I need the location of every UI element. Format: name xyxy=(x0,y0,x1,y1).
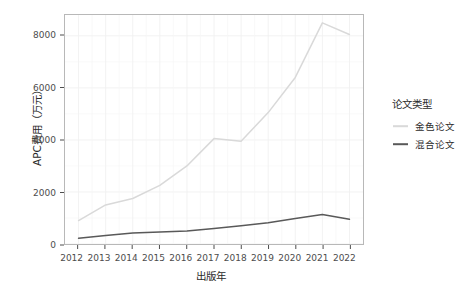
legend-key-stroke xyxy=(393,143,408,145)
y-tick-label: 4000 xyxy=(22,135,56,145)
y-tick-label: 8000 xyxy=(22,30,56,40)
y-tick-label: 6000 xyxy=(22,83,56,93)
line-chart: APC费用（万元） 02000400060008000 201220132014… xyxy=(0,0,474,288)
legend-title: 论文类型 xyxy=(392,96,472,111)
x-tick-label: 2013 xyxy=(87,253,110,263)
legend-key-stroke xyxy=(393,125,408,127)
plot-area xyxy=(65,15,363,244)
x-tick-label: 2022 xyxy=(333,253,356,263)
x-tick-label: 2019 xyxy=(251,253,274,263)
plot-panel xyxy=(64,14,364,245)
x-tick-label: 2012 xyxy=(60,253,83,263)
x-axis-tick-labels: 2012201320142015201620172018201920202021… xyxy=(58,249,364,265)
x-tick-label: 2021 xyxy=(306,253,329,263)
x-tick-label: 2020 xyxy=(278,253,301,263)
legend-key-line-icon xyxy=(392,119,409,133)
x-tick-label: 2016 xyxy=(169,253,192,263)
legend-item-label: 金色论文 xyxy=(415,119,455,133)
legend: 论文类型 金色论文混合论文 xyxy=(392,96,472,154)
x-tick-label: 2014 xyxy=(115,253,138,263)
y-tick-label: 2000 xyxy=(22,188,56,198)
x-axis-title: 出版年 xyxy=(58,268,364,283)
legend-items: 金色论文混合论文 xyxy=(392,118,472,152)
x-tick-label: 2017 xyxy=(197,253,220,263)
legend-item-label: 混合论文 xyxy=(415,137,455,151)
legend-key-line-icon xyxy=(392,137,409,151)
x-tick-label: 2015 xyxy=(142,253,165,263)
legend-item[interactable]: 金色论文 xyxy=(392,118,472,134)
y-tick-label: 0 xyxy=(22,240,56,250)
x-tick-label: 2018 xyxy=(224,253,247,263)
y-axis-tick-labels: 02000400060008000 xyxy=(16,0,56,288)
legend-item[interactable]: 混合论文 xyxy=(392,136,472,152)
